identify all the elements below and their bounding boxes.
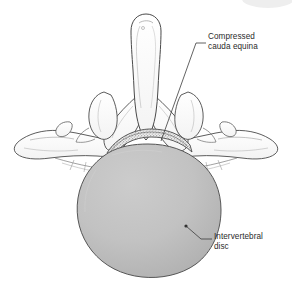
label-intervertebral-disc: Intervertebral disc — [214, 232, 290, 253]
label-compressed-cauda-equina: Compressed cauda equina — [208, 32, 290, 53]
disc-leader-dot — [184, 224, 187, 227]
anatomical-figure: Compressed cauda equina Intervertebral d… — [0, 0, 292, 285]
top-right-arc-artifact — [242, 0, 292, 8]
intervertebral-disc-body — [77, 144, 221, 277]
